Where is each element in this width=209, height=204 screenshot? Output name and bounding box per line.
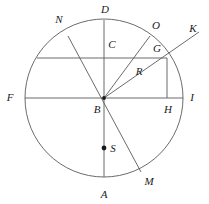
point-label-c: C xyxy=(108,39,115,50)
ray-BK xyxy=(104,32,199,98)
point-label-s: S xyxy=(110,143,116,154)
point-label-a: A xyxy=(101,189,108,200)
point-label-k: K xyxy=(189,23,196,34)
diameter-NM xyxy=(68,36,141,172)
point-label-d: D xyxy=(101,4,109,15)
point-label-g: G xyxy=(153,43,161,54)
diagram-canvas: DAFINOMBCGHRKS xyxy=(0,0,209,204)
point-label-f: F xyxy=(7,92,14,103)
point-label-r: R xyxy=(136,66,143,77)
point-label-i: I xyxy=(190,92,194,103)
point-label-o: O xyxy=(152,20,160,31)
point-label-b: B xyxy=(94,104,101,115)
point-label-m: M xyxy=(144,176,153,187)
point-label-n: N xyxy=(55,14,62,25)
center-dot-B xyxy=(102,96,106,100)
point-label-h: H xyxy=(164,104,172,115)
point-dot-S xyxy=(102,146,107,151)
circle-diagram-svg xyxy=(0,0,209,204)
